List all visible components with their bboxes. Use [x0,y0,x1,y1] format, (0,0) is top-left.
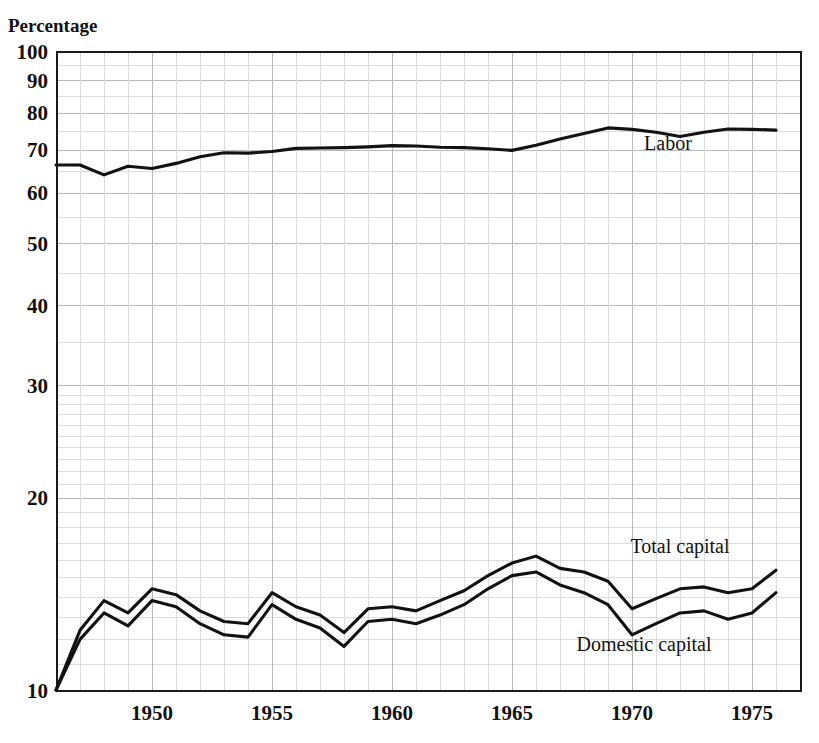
chart-container: 102030405060708090100 195019551960196519… [0,0,819,743]
x-tick-label: 1950 [131,701,173,725]
y-tick-label: 60 [27,181,48,205]
annotation-total-capital: Total capital [630,535,730,558]
y-axis-title: Percentage [8,15,97,36]
percentage-log-line-chart: 102030405060708090100 195019551960196519… [0,0,819,743]
y-tick-label: 80 [27,101,48,125]
y-tick-label: 90 [27,69,48,93]
annotation-domestic-capital: Domestic capital [577,633,712,656]
chart-background [0,0,819,743]
y-tick-label: 10 [27,679,48,703]
y-tick-label: 30 [27,374,48,398]
y-tick-label: 20 [27,486,48,510]
y-tick-label: 40 [27,294,48,318]
x-tick-label: 1970 [611,701,653,725]
y-tick-label: 50 [27,232,48,256]
annotation-labor: Labor [644,132,692,154]
x-tick-label: 1955 [251,701,293,725]
x-tick-label: 1965 [491,701,533,725]
x-tick-label: 1975 [731,701,773,725]
y-tick-label: 70 [27,138,48,162]
y-tick-label: 100 [17,40,49,64]
x-tick-label: 1960 [371,701,413,725]
